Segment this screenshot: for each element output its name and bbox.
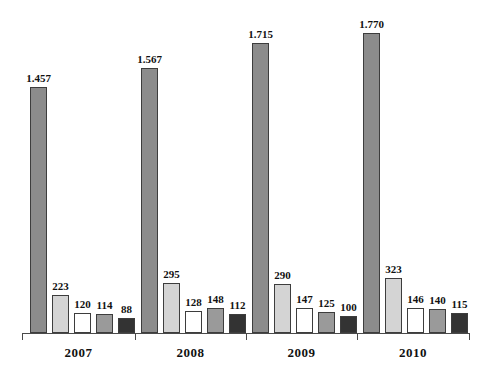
bar-rect[interactable] <box>451 313 468 333</box>
bar-value-label: 1.715 <box>248 28 273 40</box>
bar-rect[interactable] <box>52 295 69 333</box>
bar-value-label: 128 <box>185 296 202 308</box>
bar-value-label: 100 <box>340 301 357 313</box>
bar-rect[interactable] <box>163 283 180 333</box>
bar-value-label: 125 <box>318 297 335 309</box>
bar-value-label: 148 <box>207 293 224 305</box>
bar-rect[interactable] <box>363 33 380 333</box>
category-label-2010: 2010 <box>357 345 469 361</box>
bar-value-label: 115 <box>452 298 468 310</box>
category-label-2009: 2009 <box>246 345 357 361</box>
bar-value-label: 290 <box>274 269 291 281</box>
bar-rect[interactable] <box>340 316 357 333</box>
bar-value-label: 140 <box>429 294 446 306</box>
bar-value-label: 323 <box>385 263 402 275</box>
bar-rect[interactable] <box>141 68 158 333</box>
bar-value-label: 1.567 <box>137 53 162 65</box>
x-axis-tick-3 <box>357 334 358 340</box>
bar-rect[interactable] <box>96 314 113 333</box>
bar-group-2010: 1.770 323 146 140 115 <box>363 40 473 333</box>
bar-rect[interactable] <box>407 308 424 333</box>
bar-group-2008: 1.567 295 128 148 112 <box>141 40 251 333</box>
x-axis-tick-2 <box>246 334 247 340</box>
category-label-2007: 2007 <box>22 345 135 361</box>
bar-rect[interactable] <box>74 313 91 333</box>
category-label-2008: 2008 <box>135 345 246 361</box>
bar-value-label: 114 <box>97 299 113 311</box>
bar-value-label: 1.770 <box>359 18 384 30</box>
bar-rect[interactable] <box>429 309 446 333</box>
bar-value-label: 147 <box>296 293 313 305</box>
bar-value-label: 223 <box>52 280 69 292</box>
bar-value-label: 146 <box>407 293 424 305</box>
bar-rect[interactable] <box>296 308 313 333</box>
bar-rect[interactable] <box>207 308 224 333</box>
bar-value-label: 88 <box>121 303 132 315</box>
bar-rect[interactable] <box>385 278 402 333</box>
bar-rect[interactable] <box>118 318 135 333</box>
bar-rect[interactable] <box>318 312 335 333</box>
bar-group-2009: 1.715 290 147 125 100 <box>252 40 362 333</box>
bar-rect[interactable] <box>274 284 291 333</box>
bar-value-label: 295 <box>163 268 180 280</box>
bar-value-label: 1.457 <box>26 72 51 84</box>
bar-rect[interactable] <box>30 87 47 333</box>
bar-value-label: 112 <box>230 299 246 311</box>
x-axis-tick-end <box>469 334 470 340</box>
x-axis-tick-1 <box>135 334 136 340</box>
bar-rect[interactable] <box>229 314 246 333</box>
bar-group-2007: 1.457 223 120 114 88 <box>30 40 140 333</box>
plot-area: 1.457 223 120 114 88 1.567 <box>0 0 489 373</box>
bar-rect[interactable] <box>252 43 269 333</box>
bar-value-label: 120 <box>74 298 91 310</box>
bar-rect[interactable] <box>185 311 202 333</box>
bar-chart: 1.457 223 120 114 88 1.567 <box>0 0 489 373</box>
x-axis-tick-start <box>22 334 23 340</box>
